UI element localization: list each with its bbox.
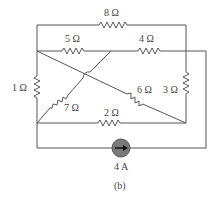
circuit-diagram: [0, 0, 216, 201]
label-8-ohm: 8 Ω: [104, 8, 119, 18]
label-1-ohm: 1 Ω: [12, 83, 27, 93]
resistor-1-ohm: [34, 76, 40, 98]
label-6-ohm: 6 Ω: [137, 85, 152, 95]
current-source-4A: [112, 139, 130, 157]
resistor-3-ohm: [183, 72, 189, 94]
resistor-8-ohm: [99, 22, 129, 28]
figure-caption: (b): [114, 181, 126, 191]
resistor-4-ohm: [138, 48, 160, 54]
label-4-ohm: 4 Ω: [139, 34, 154, 44]
label-3-ohm: 3 Ω: [163, 85, 178, 95]
wire-left: [37, 51, 112, 148]
wire-top: [37, 25, 186, 72]
label-7-ohm: 7 Ω: [64, 103, 79, 113]
resistor-2-ohm: [98, 120, 122, 126]
label-5-ohm: 5 Ω: [65, 34, 80, 44]
label-source-4A: 4 A: [114, 162, 128, 172]
label-2-ohm: 2 Ω: [104, 108, 119, 118]
resistor-5-ohm: [62, 48, 84, 54]
